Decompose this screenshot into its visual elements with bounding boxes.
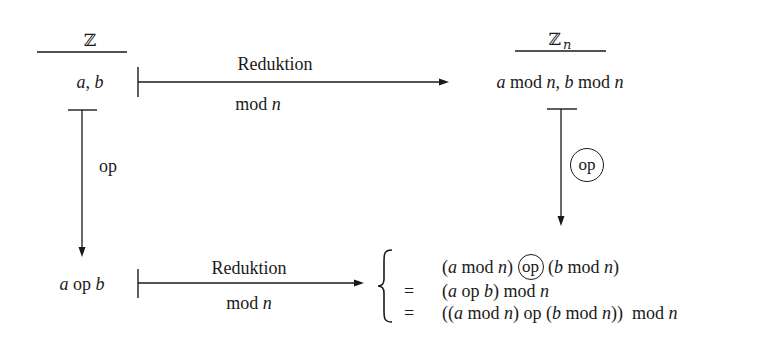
var-n: n	[263, 293, 272, 313]
var-n: n	[615, 72, 624, 92]
comma: ,	[86, 72, 95, 92]
var-n: n	[602, 303, 611, 323]
paren: )	[613, 257, 619, 277]
elements-a-mod-n-b-mod-n: a mod n, b mod n	[496, 72, 623, 92]
var-a: a	[448, 257, 457, 277]
top-arrow-label-below: mod n	[235, 94, 281, 114]
var-a: a	[496, 72, 505, 92]
set-zn-symbol: ℤ	[549, 29, 561, 49]
var-b: b	[484, 281, 493, 301]
var-b: b	[554, 257, 563, 277]
var-b: b	[95, 72, 104, 92]
left-arrow-op-label: op	[99, 156, 117, 176]
var-a: a	[60, 274, 69, 294]
left-op-arrow	[68, 110, 97, 257]
set-zn-label: ℤn	[549, 29, 572, 51]
result-row-2: ((a mod n) op (b mod n)) mod n	[442, 303, 678, 323]
var-b: b	[565, 72, 574, 92]
var-a: a	[454, 303, 463, 323]
comma: ,	[556, 72, 565, 92]
mod-text: )) mod	[611, 303, 669, 323]
top-arrow-label-above: Reduktion	[238, 54, 313, 74]
mod-text: mod	[226, 293, 263, 313]
paren: ((	[442, 303, 454, 323]
mod-text: mod	[457, 257, 498, 277]
mod-text: ) mod	[493, 281, 540, 301]
var-n: n	[272, 94, 281, 114]
var-n: n	[540, 281, 549, 301]
mod-text: mod	[235, 94, 272, 114]
op-text: ) op (	[513, 303, 552, 323]
result-row-0: (a mod n) op (b mod n)	[442, 256, 619, 282]
mod-text: mod	[561, 303, 602, 323]
circled-op: op	[570, 148, 604, 182]
set-z-symbol: ℤ	[84, 30, 96, 50]
op-text: op	[69, 274, 96, 294]
bottom-arrow-label-below: mod n	[226, 293, 272, 313]
var-n: n	[669, 303, 678, 323]
var-a: a	[77, 72, 86, 92]
var-a: a	[448, 281, 457, 301]
var-n: n	[604, 257, 613, 277]
mod-text: mod	[574, 72, 615, 92]
paren: )	[507, 257, 518, 277]
var-n: n	[547, 72, 556, 92]
set-z-label: ℤ	[84, 30, 96, 50]
result-brace	[378, 250, 392, 322]
var-n: n	[498, 257, 507, 277]
paren: (	[544, 257, 555, 277]
result-row-1-equals: =	[404, 281, 414, 301]
right-arrow-circled-op-label: op	[570, 148, 604, 182]
mod-text: mod	[563, 257, 604, 277]
var-b: b	[96, 274, 105, 294]
a-op-b: a op b	[60, 274, 105, 294]
circled-op: op	[518, 254, 544, 280]
op-text: op	[457, 281, 484, 301]
bottom-arrow-label-above: Reduktion	[212, 258, 287, 278]
elements-a-b: a, b	[77, 72, 104, 92]
mod-text: mod	[505, 72, 546, 92]
mod-text: mod	[463, 303, 504, 323]
result-row-1: (a op b) mod n	[442, 281, 549, 301]
result-row-2-equals: =	[404, 303, 414, 323]
var-n: n	[504, 303, 513, 323]
var-b: b	[552, 303, 561, 323]
set-zn-subscript: n	[563, 37, 571, 52]
